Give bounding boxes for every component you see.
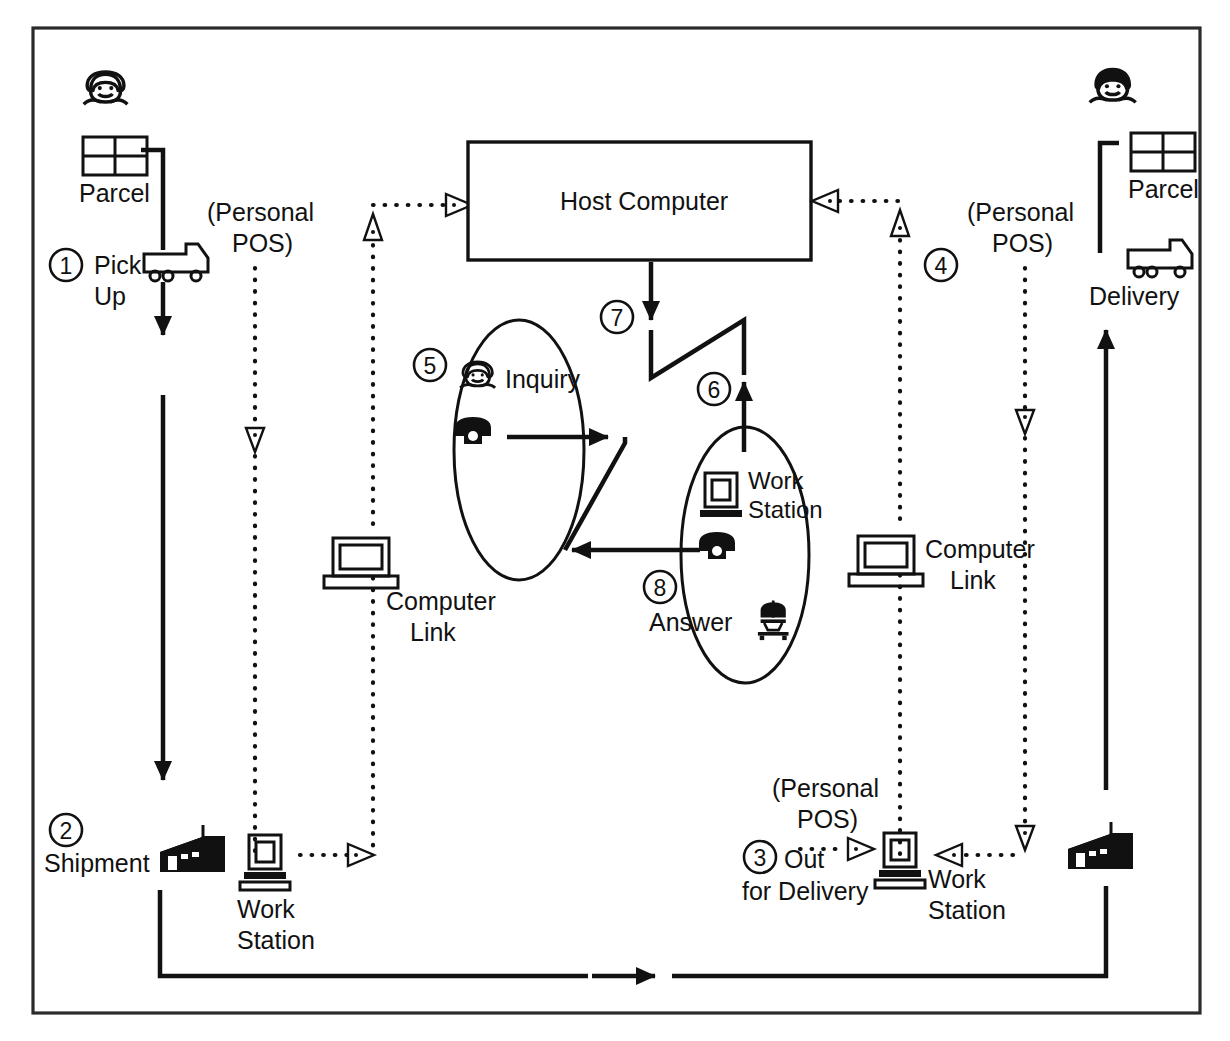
computer-link-left-line2: Link [410,618,456,646]
dotted-right-pos-lower-arrowhead [1016,826,1034,850]
computer-link-right-line2: Link [950,566,996,594]
workstation-mid-icon [700,473,742,517]
shipment-label: Shipment [44,849,150,877]
truck-right-icon [1128,240,1192,277]
personal-pos-left-line2: POS) [232,229,293,257]
dotted-right-pos-arrowhead [1016,410,1034,434]
flow-bottom-right-route [672,886,1106,976]
customer-face-left-icon [84,72,128,104]
agent-headset-icon [758,601,789,641]
parcel-box-right-icon [1131,133,1195,171]
workstation-bottom-left-icon [240,835,290,890]
out-for-delivery-line2: for Delivery [742,877,869,905]
personal-pos-bottom-line2: POS) [797,805,858,833]
step-8-number: 8 [654,575,667,601]
flow-parcel-right-bracket [1100,143,1119,253]
flow-lower-zigzag [565,437,625,550]
dotted-right-to-host-arrowhead [812,190,838,212]
workstation-mid-line1: Work [748,467,805,494]
process-flow-diagram: Parcel 1 Pick Up (Personal POS) [0,0,1230,1041]
personal-pos-right-line1: (Personal [967,198,1074,226]
step-3-number: 3 [754,845,767,871]
step-6-number: 6 [708,377,721,403]
laptop-left-icon [324,538,398,588]
step-1-label-line2: Up [94,282,126,310]
step-1-label-line1: Pick [94,251,142,279]
personal-pos-right-line2: POS) [992,229,1053,257]
step-7-number: 7 [611,305,624,331]
truck-left-icon [144,244,208,281]
workstation-answer-ellipse [681,427,809,683]
dotted-right-link-arrowhead [891,210,909,236]
workstation-bottom-right-icon [875,833,925,888]
step-5-number: 5 [424,353,437,379]
parcel-left-label: Parcel [79,179,150,207]
out-for-delivery-line1: Out [784,845,824,873]
dotted-left-pos-arrowhead [246,428,264,452]
workstation-br-line1: Work [928,865,986,893]
parcel-box-left-icon [83,137,147,175]
step-1-number: 1 [60,253,73,279]
flow-7-zigzag [651,320,744,378]
dotted-step3-arrowhead [848,838,874,860]
diagram-canvas: Parcel 1 Pick Up (Personal POS) [0,0,1230,1041]
inquiry-label: Inquiry [505,365,581,393]
computer-link-right-line1: Computer [925,535,1035,563]
step-2-number: 2 [60,818,73,844]
warehouse-right-icon [1068,822,1133,869]
answer-label: Answer [649,608,732,636]
laptop-right-icon [849,536,923,586]
personal-pos-left-line1: (Personal [207,198,314,226]
answer-telephone-icon [699,532,735,559]
inquiry-telephone-icon [455,417,491,444]
workstation-mid-line2: Station [748,496,823,523]
flow-bottom-left-route [160,890,588,976]
workstation-br-line2: Station [928,896,1006,924]
warehouse-left-icon [160,825,225,872]
step-4-number: 4 [935,253,948,279]
inquiry-ellipse [454,320,584,580]
workstation-bl-line2: Station [237,926,315,954]
host-computer-label: Host Computer [560,187,728,215]
computer-link-left-line1: Computer [386,587,496,615]
inquiry-person-face-icon [460,362,495,388]
parcel-right-label: Parcel [1128,175,1199,203]
customer-face-right-icon [1090,68,1136,103]
dotted-left-link-arrowhead [364,214,382,240]
delivery-label: Delivery [1089,282,1180,310]
workstation-bl-line1: Work [237,895,295,923]
personal-pos-bottom-line1: (Personal [772,774,879,802]
dotted-right-to-ws-arrowhead [936,844,962,866]
dotted-bl-ws-arrowhead [348,844,374,866]
